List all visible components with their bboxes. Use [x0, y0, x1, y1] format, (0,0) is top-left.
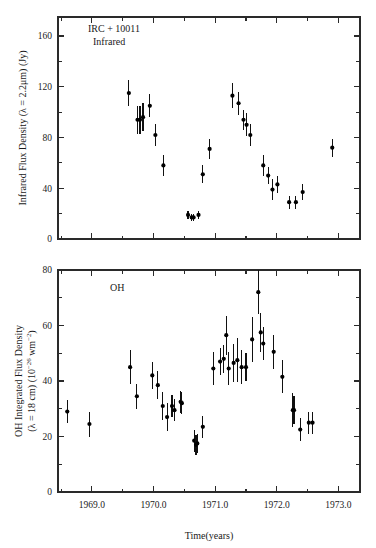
- xtick-label: 1970.0: [140, 500, 166, 510]
- data-point: [330, 139, 334, 157]
- data-point: [270, 179, 274, 199]
- data-point: [161, 392, 165, 420]
- data-point: [250, 317, 254, 361]
- data-point: [244, 113, 248, 136]
- data-point: [301, 184, 305, 199]
- xtick-label: 1972.0: [264, 500, 290, 510]
- oh-panel: 020406080 1969.01970.01971.01972.01973.0…: [13, 265, 360, 542]
- xtick-label: 1969.0: [79, 500, 105, 510]
- x-axis-title: Time(years): [185, 530, 234, 542]
- data-point: [227, 352, 231, 385]
- x-axis-tick-labels: 1969.01970.01971.01972.01973.0: [79, 500, 352, 510]
- data-point: [266, 167, 270, 185]
- data-point: [241, 110, 245, 130]
- data-point: [211, 352, 215, 385]
- data-point: [222, 345, 226, 373]
- ytick-label: 40: [43, 376, 53, 386]
- data-point: [186, 211, 190, 219]
- data-point: [218, 348, 222, 376]
- data-point: [294, 196, 298, 209]
- data-point: [261, 155, 265, 175]
- data-point: [196, 211, 200, 219]
- data-point: [307, 412, 311, 434]
- data-point: [172, 399, 176, 421]
- data-point: [165, 403, 169, 431]
- data-point: [248, 124, 252, 147]
- data-point: [138, 106, 142, 134]
- ytick-label: 40: [43, 184, 53, 194]
- data-point: [87, 412, 91, 437]
- data-point: [272, 335, 276, 368]
- data-point: [201, 416, 205, 438]
- data-point: [287, 196, 291, 209]
- data-point: [201, 165, 205, 183]
- data-point: [135, 384, 139, 409]
- data-point: [232, 344, 236, 383]
- ytick-label: 120: [38, 82, 53, 92]
- ytick-label: 20: [43, 432, 53, 442]
- data-point: [244, 353, 248, 381]
- data-point: [230, 83, 234, 108]
- data-point: [224, 316, 228, 355]
- infrared-data-points: [127, 80, 335, 221]
- data-point: [208, 139, 212, 159]
- data-point: [256, 270, 260, 314]
- data-point: [156, 371, 160, 399]
- oh-ytick-labels: 020406080: [43, 265, 53, 497]
- data-point: [170, 395, 174, 417]
- figure-canvas: 04080120160 IRC + 10011 Infrared Infrare…: [0, 0, 376, 548]
- oh-y-axis-title-line2: (λ = 18 cm) (10−26 wm−2): [25, 330, 38, 431]
- ytick-label: 160: [38, 31, 53, 41]
- data-point: [128, 350, 132, 383]
- ytick-label: 0: [47, 234, 52, 244]
- ytick-label: 80: [43, 265, 53, 275]
- data-point: [259, 313, 263, 352]
- infrared-ytick-labels: 04080120160: [38, 31, 53, 244]
- infrared-panel: 04080120160 IRC + 10011 Infrared Infrare…: [17, 17, 360, 244]
- data-point: [153, 124, 157, 147]
- data-point: [148, 94, 152, 117]
- infrared-annotation-line2: Infrared: [93, 36, 125, 47]
- data-point: [240, 350, 244, 383]
- xtick-label: 1973.0: [325, 500, 351, 510]
- infrared-plot-frame: [58, 17, 360, 239]
- oh-data-points: [65, 270, 314, 455]
- infrared-y-axis-title: Infrared Flux Density (λ = 2.2μm) (Jy): [17, 50, 29, 205]
- data-point: [161, 155, 165, 175]
- data-point: [141, 103, 145, 131]
- data-point: [65, 400, 69, 422]
- xtick-label: 1971.0: [202, 500, 228, 510]
- oh-annotation: OH: [110, 282, 124, 293]
- infrared-annotation-line1: IRC + 10011: [88, 23, 140, 34]
- data-point: [275, 176, 279, 194]
- ytick-label: 0: [47, 487, 52, 497]
- data-point: [310, 412, 314, 434]
- data-point: [150, 362, 154, 390]
- oh-plot-frame: [58, 270, 360, 492]
- ytick-label: 80: [43, 133, 53, 143]
- data-point: [298, 418, 302, 440]
- infrared-tick-marks: [58, 17, 360, 239]
- data-point: [236, 92, 240, 115]
- oh-tick-marks: [58, 270, 360, 492]
- oh-y-axis-title-line1: OH Integrated Flux Density: [13, 325, 24, 437]
- data-point: [127, 80, 131, 105]
- data-point: [235, 338, 239, 382]
- ytick-label: 60: [43, 321, 53, 331]
- data-point: [280, 360, 284, 393]
